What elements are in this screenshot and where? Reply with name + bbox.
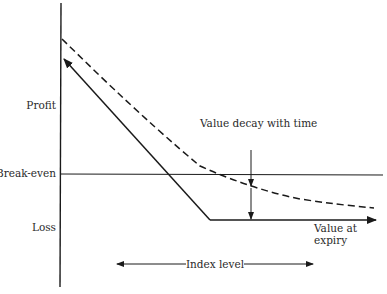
payoff-diagram: Profit Break-even Loss Value decay with … — [0, 0, 387, 294]
value-at-expiry-label-2: expiry — [314, 234, 347, 246]
index-level-label: Index level — [186, 258, 245, 270]
expiry-payoff-slope — [64, 59, 210, 220]
profit-label: Profit — [26, 99, 56, 111]
value-at-expiry-label-1: Value at — [313, 222, 358, 234]
y-axis — [60, 3, 61, 287]
value-decay-label: Value decay with time — [199, 117, 317, 129]
break-even-label: Break-even — [0, 167, 56, 179]
loss-label: Loss — [32, 221, 56, 233]
